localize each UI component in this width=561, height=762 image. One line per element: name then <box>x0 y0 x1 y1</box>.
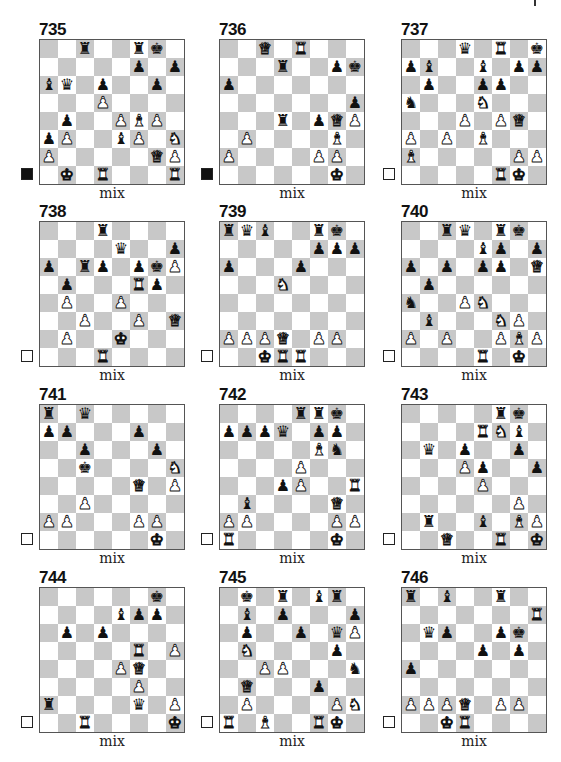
square-c8: ♝ <box>256 222 274 240</box>
white-pawn-icon: ♟ <box>60 330 74 348</box>
square-d8: ♛ <box>456 222 474 240</box>
square-d2 <box>274 148 292 166</box>
square-a8 <box>220 588 238 606</box>
square-b2 <box>420 330 438 348</box>
square-f2: ♟ <box>310 330 328 348</box>
square-h1 <box>166 531 184 549</box>
black-pawn-icon: ♟ <box>404 58 418 76</box>
square-e6 <box>112 258 130 276</box>
square-d8 <box>274 405 292 423</box>
square-d8 <box>456 405 474 423</box>
square-a1 <box>40 714 58 732</box>
square-c5 <box>76 642 94 660</box>
square-g5: ♟ <box>148 276 166 294</box>
black-queen-icon: ♛ <box>458 222 472 240</box>
square-e5: ♟ <box>474 642 492 660</box>
black-rook-icon: ♜ <box>494 588 508 606</box>
white-pawn-icon: ♟ <box>168 258 182 276</box>
square-b6 <box>58 258 76 276</box>
square-h8 <box>166 588 184 606</box>
square-e1 <box>112 714 130 732</box>
black-pawn-icon: ♟ <box>132 606 146 624</box>
square-f5 <box>492 94 510 112</box>
square-f5 <box>310 642 328 660</box>
black-pawn-icon: ♟ <box>294 258 308 276</box>
square-g8 <box>510 40 528 58</box>
square-c7 <box>256 606 274 624</box>
square-h8: ♚ <box>528 40 546 58</box>
white-pawn-icon: ♟ <box>114 112 128 130</box>
square-g4 <box>148 294 166 312</box>
square-b4 <box>238 660 256 678</box>
square-f1: ♜ <box>492 531 510 549</box>
square-h2: ♟ <box>166 696 184 714</box>
square-d3 <box>274 312 292 330</box>
square-d4 <box>94 294 112 312</box>
white-pawn-icon: ♟ <box>404 130 418 148</box>
square-a4 <box>402 112 420 130</box>
square-c5 <box>256 94 274 112</box>
square-f4 <box>310 477 328 495</box>
square-h1 <box>346 348 364 366</box>
square-c2 <box>76 148 94 166</box>
square-h2 <box>166 513 184 531</box>
square-a2 <box>220 696 238 714</box>
square-a7: ♟ <box>220 423 238 441</box>
square-a1: ♜ <box>220 531 238 549</box>
square-g3 <box>328 312 346 330</box>
square-b6: ♟ <box>238 624 256 642</box>
square-h2: ♞ <box>346 696 364 714</box>
square-f7 <box>130 240 148 258</box>
white-rook-icon: ♜ <box>132 642 146 660</box>
square-b4: ♟ <box>58 294 76 312</box>
white-knight-icon: ♞ <box>240 642 254 660</box>
square-a3 <box>402 312 420 330</box>
square-g8 <box>328 40 346 58</box>
square-a8 <box>220 405 238 423</box>
square-d3 <box>274 130 292 148</box>
square-f1 <box>310 348 328 366</box>
square-c2 <box>76 696 94 714</box>
square-h6 <box>346 258 364 276</box>
white-queen-icon: ♛ <box>168 312 182 330</box>
square-a5 <box>40 94 58 112</box>
square-c2 <box>256 696 274 714</box>
square-d2 <box>456 148 474 166</box>
white-pawn-icon: ♟ <box>404 696 418 714</box>
square-f7: ♞ <box>492 423 510 441</box>
square-d8 <box>94 40 112 58</box>
black-pawn-icon: ♟ <box>476 459 490 477</box>
square-h6 <box>166 624 184 642</box>
square-a1 <box>40 166 58 184</box>
square-h1 <box>528 166 546 184</box>
square-h4 <box>166 112 184 130</box>
square-g6 <box>328 76 346 94</box>
square-c8: ♜ <box>76 40 94 58</box>
square-d1 <box>274 531 292 549</box>
square-c6: ♜ <box>76 258 94 276</box>
square-e8 <box>112 405 130 423</box>
square-c5 <box>76 94 94 112</box>
white-pawn-icon: ♟ <box>42 148 56 166</box>
square-a3 <box>220 130 238 148</box>
black-bishop-icon: ♝ <box>476 240 490 258</box>
square-b4 <box>420 660 438 678</box>
square-g7 <box>510 606 528 624</box>
square-g6: ♚ <box>510 624 528 642</box>
square-f5: ♜ <box>130 276 148 294</box>
puzzle-caption: mix <box>39 185 185 201</box>
square-g5: ♟ <box>328 642 346 660</box>
chess-board: ♜♜♚♟♟♟♛♟♟♝♞♟♟♟♜♝♛♟♟♟♟♜♚ <box>219 404 365 550</box>
black-bishop-icon: ♝ <box>312 588 326 606</box>
square-g1 <box>148 714 166 732</box>
square-e7 <box>112 58 130 76</box>
square-d3 <box>456 130 474 148</box>
white-queen-icon: ♛ <box>440 531 454 549</box>
chess-board: ♜♚♜♞♝♛♟♟♟♟♟♟♟♜♝♝♟♛♜♚ <box>401 404 547 550</box>
puzzle-742: 742 ♜♜♚♟♟♟♛♟♟♝♞♟♟♟♜♝♛♟♟♟♟♜♚ mix <box>219 385 389 565</box>
square-a3 <box>40 312 58 330</box>
white-knight-icon: ♞ <box>494 312 508 330</box>
square-e2 <box>112 513 130 531</box>
square-a8 <box>402 405 420 423</box>
square-c4 <box>76 660 94 678</box>
